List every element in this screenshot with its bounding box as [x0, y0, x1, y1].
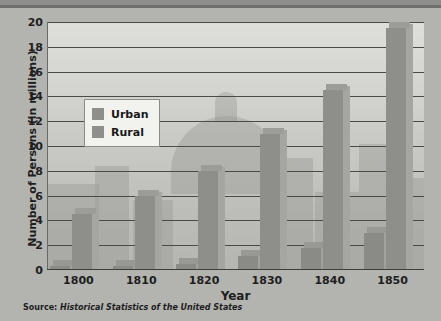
- bar-side-face: [406, 24, 413, 270]
- bar-front-face: [198, 171, 218, 270]
- gridline: [47, 72, 424, 73]
- bar-side-face: [280, 130, 287, 270]
- gridline: [47, 47, 424, 48]
- gridline: [47, 96, 424, 97]
- bar-front-face: [238, 256, 258, 270]
- bar-side-face: [218, 167, 225, 270]
- x-tick-label: 1830: [252, 274, 283, 287]
- x-tick-label: 1810: [126, 274, 157, 287]
- source-note: Source: Historical Statistics of the Uni…: [23, 303, 242, 312]
- legend-item-rural: Rural: [92, 123, 149, 141]
- bar-front-face: [364, 233, 384, 270]
- gridline: [47, 196, 424, 197]
- y-tick-label: 10: [3, 140, 43, 153]
- x-tick-label: 1840: [314, 274, 345, 287]
- bar-front-face: [135, 196, 155, 270]
- bar-front-face: [323, 90, 343, 270]
- legend-swatch-icon: [92, 126, 104, 138]
- source-title: Historical Statistics of the United Stat…: [60, 303, 242, 312]
- legend-label: Rural: [111, 126, 144, 139]
- bar-rural-1810: [135, 190, 162, 270]
- bar-front-face: [260, 134, 280, 270]
- legend-label: Urban: [111, 108, 149, 121]
- chart-figure: Number of Persons (in millions) 02468101…: [0, 0, 441, 321]
- bar-side-face: [155, 192, 162, 270]
- gridline: [47, 171, 424, 172]
- x-tick-label: 1820: [189, 274, 220, 287]
- bar-rural-1850: [386, 22, 413, 270]
- x-axis-title: Year: [47, 289, 424, 303]
- bar-front-face: [386, 28, 406, 270]
- legend-item-urban: Urban: [92, 105, 149, 123]
- y-axis-line: [47, 22, 48, 270]
- x-tick-label: 1850: [377, 274, 408, 287]
- y-axis-tick-labels: 02468101214161820: [0, 22, 43, 270]
- y-tick-label: 18: [3, 40, 43, 53]
- y-tick-label: 14: [3, 90, 43, 103]
- legend-swatch-icon: [92, 108, 104, 120]
- x-axis-tick-labels: 180018101820183018401850: [47, 274, 424, 290]
- gridline: [47, 22, 424, 23]
- bar-rural-1840: [323, 84, 350, 270]
- y-tick-label: 2: [3, 239, 43, 252]
- bar-side-face: [343, 86, 350, 270]
- bar-rural-1830: [260, 128, 287, 270]
- source-label: Source:: [23, 303, 60, 312]
- gridline: [47, 220, 424, 221]
- y-tick-label: 16: [3, 65, 43, 78]
- y-tick-label: 8: [3, 164, 43, 177]
- y-tick-label: 6: [3, 189, 43, 202]
- y-tick-label: 20: [3, 16, 43, 29]
- x-axis-line: [47, 269, 424, 270]
- y-tick-label: 0: [3, 264, 43, 277]
- bar-rural-1800: [72, 208, 99, 270]
- x-tick-label: 1800: [63, 274, 94, 287]
- chart-legend: UrbanRural: [84, 99, 160, 147]
- y-tick-label: 4: [3, 214, 43, 227]
- bar-front-face: [72, 214, 92, 270]
- bar-side-face: [92, 210, 99, 270]
- figure-top-shadow: [0, 5, 441, 8]
- y-tick-label: 12: [3, 115, 43, 128]
- bar-rural-1820: [198, 165, 225, 270]
- bar-front-face: [301, 248, 321, 270]
